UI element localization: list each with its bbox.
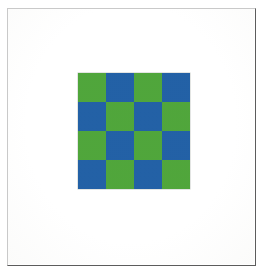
checker-cell-blue-r2c3: [134, 102, 162, 131]
checker-cell-green-r1c3: [134, 73, 162, 102]
checker-cell-blue-r4c1: [78, 160, 106, 189]
figure-canvas: [0, 0, 265, 275]
checker-cell-green-r4c4: [162, 160, 190, 189]
checker-cell-green-r2c4: [162, 102, 190, 131]
checker-cell-blue-r1c2: [106, 73, 134, 102]
checker-cell-green-r3c1: [78, 131, 106, 160]
checker-cell-blue-r4c3: [134, 160, 162, 189]
checker-cell-green-r2c2: [106, 102, 134, 131]
checkerboard-grid: [78, 73, 190, 189]
checker-cell-blue-r2c1: [78, 102, 106, 131]
checker-cell-blue-r3c4: [162, 131, 190, 160]
checker-cell-green-r3c3: [134, 131, 162, 160]
checker-cell-blue-r1c4: [162, 73, 190, 102]
checker-cell-blue-r3c2: [106, 131, 134, 160]
checker-cell-green-r4c2: [106, 160, 134, 189]
checker-cell-green-r1c1: [78, 73, 106, 102]
